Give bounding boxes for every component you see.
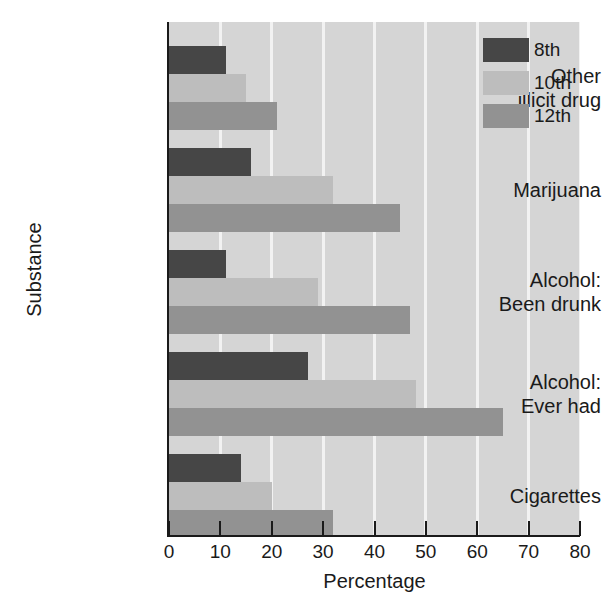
tick-mark-50: [425, 521, 427, 536]
legend-label-12th: 12th: [534, 103, 571, 128]
tick-label-50: 50: [406, 541, 446, 563]
bar-alcohol-been-drunk-8th: [169, 250, 226, 278]
tick-label-20: 20: [252, 541, 292, 563]
bar-other-illicit-drug-12th: [169, 102, 277, 130]
tick-label-80: 80: [560, 541, 600, 563]
tick-mark-40: [374, 521, 376, 536]
bar-other-illicit-drug-10th: [169, 74, 246, 102]
legend-label-8th: 8th: [534, 37, 560, 62]
y-axis-title: Substance: [23, 200, 46, 340]
gridline-50: [424, 22, 427, 535]
category-label-alcohol-been-drunk: Alcohol:Been drunk: [450, 268, 610, 316]
bar-alcohol-ever-had-10th: [169, 380, 416, 408]
category-label-line: Ever had: [450, 394, 601, 418]
category-label-line: Marijuana: [450, 178, 601, 202]
legend-swatch-8th: [483, 38, 529, 62]
legend-swatch-12th: [483, 104, 529, 128]
category-label-alcohol-ever-had: Alcohol:Ever had: [450, 370, 610, 418]
bar-other-illicit-drug-8th: [169, 46, 226, 74]
gridline-40: [373, 22, 376, 535]
x-axis-title: Percentage: [169, 570, 580, 593]
legend-label-10th: 10th: [534, 70, 571, 95]
bar-marijuana-8th: [169, 148, 251, 176]
tick-mark-20: [271, 521, 273, 536]
bar-marijuana-12th: [169, 204, 400, 232]
tick-label-70: 70: [509, 541, 549, 563]
tick-label-40: 40: [355, 541, 395, 563]
category-label-line: Cigarettes: [450, 484, 601, 508]
category-label-line: Alcohol:: [450, 370, 601, 394]
y-axis-line: [167, 22, 169, 537]
tick-mark-80: [579, 521, 581, 536]
bar-cigarettes-10th: [169, 482, 272, 510]
bar-marijuana-10th: [169, 176, 333, 204]
tick-label-30: 30: [303, 541, 343, 563]
tick-label-60: 60: [457, 541, 497, 563]
bar-cigarettes-8th: [169, 454, 241, 482]
tick-label-10: 10: [200, 541, 240, 563]
tick-mark-10: [219, 521, 221, 536]
tick-mark-60: [476, 521, 478, 536]
category-label-marijuana: Marijuana: [450, 178, 610, 202]
bar-alcohol-been-drunk-10th: [169, 278, 318, 306]
gridline-30: [322, 22, 325, 535]
bar-alcohol-been-drunk-12th: [169, 306, 410, 334]
legend-item-10th: 10th: [483, 69, 575, 102]
category-label-cigarettes: Cigarettes: [450, 484, 610, 508]
bar-alcohol-ever-had-8th: [169, 352, 308, 380]
tick-mark-30: [322, 521, 324, 536]
bar-cigarettes-12th: [169, 510, 333, 535]
category-label-line: Alcohol:: [450, 268, 601, 292]
legend-item-12th: 12th: [483, 102, 575, 135]
legend-item-8th: 8th: [483, 36, 575, 69]
bar-chart: 01020304050607080 Percentage Substance O…: [0, 0, 610, 612]
tick-label-0: 0: [149, 541, 189, 563]
tick-mark-0: [168, 521, 170, 536]
category-label-line: Been drunk: [450, 292, 601, 316]
legend: 8th10th12th: [483, 36, 575, 135]
tick-mark-70: [528, 521, 530, 536]
legend-swatch-10th: [483, 71, 529, 95]
